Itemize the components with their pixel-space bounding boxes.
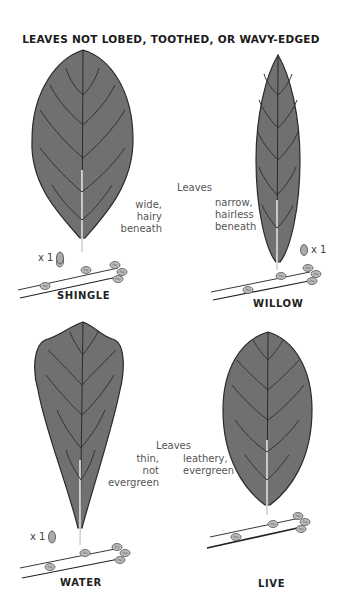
willow-name: WILLOW <box>253 298 303 309</box>
trait-line: not <box>105 465 159 477</box>
trait-line: hairless <box>215 209 256 221</box>
water-scale-bud-icon <box>49 531 56 543</box>
water-leaf <box>35 322 124 545</box>
live-leaf <box>223 332 312 515</box>
shingle-scale-bud-icon <box>57 252 64 264</box>
water-scale-label: x 1 <box>30 531 45 542</box>
live-twig <box>207 513 310 549</box>
shingle-scale-label: x 1 <box>38 252 53 263</box>
shingle-name: SHINGLE <box>57 290 110 301</box>
willow-leaf <box>256 55 300 270</box>
willow-traits: narrow, hairless beneath <box>215 197 256 233</box>
live-traits: leathery, evergreen <box>183 453 234 477</box>
willow-scale-label: x 1 <box>311 244 326 255</box>
live-name: LIVE <box>258 578 285 589</box>
trait-line: evergreen <box>105 477 159 489</box>
water-name: WATER <box>60 577 102 588</box>
trait-line: thin, <box>105 453 159 465</box>
top-group-label: Leaves <box>177 182 212 194</box>
trait-line: leathery, <box>183 453 234 465</box>
shingle-traits: wide, hairy beneath <box>115 199 162 235</box>
willow-scale-bud-icon <box>301 245 308 256</box>
trait-line: evergreen <box>183 465 234 477</box>
trait-line: hairy <box>115 211 162 223</box>
trait-line: narrow, <box>215 197 256 209</box>
bottom-group-label: Leaves <box>156 440 191 452</box>
trait-line: beneath <box>215 221 256 233</box>
willow-twig <box>211 265 321 301</box>
water-traits: thin, not evergreen <box>105 453 159 489</box>
water-twig <box>20 544 130 579</box>
trait-line: beneath <box>115 223 162 235</box>
trait-line: wide, <box>115 199 162 211</box>
